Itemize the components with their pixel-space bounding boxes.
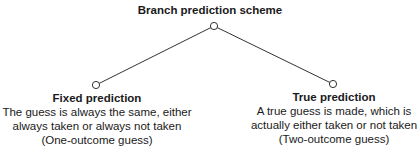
leaf-true-prediction: True prediction A true guess is made, wh…: [234, 90, 420, 146]
edge-right: [214, 26, 333, 84]
leaf-line: A true guess is made, which is: [234, 104, 420, 118]
root-label: Branch prediction scheme: [0, 4, 420, 16]
leaf-title: True prediction: [234, 90, 420, 104]
leaf-line: The guess is always the same, either: [0, 105, 194, 119]
edge-left: [96, 26, 214, 85]
leaf-line: always taken or always not taken: [0, 119, 194, 133]
right-node: [329, 80, 336, 87]
left-node: [92, 81, 99, 88]
root-node: [210, 22, 217, 29]
leaf-fixed-prediction: Fixed prediction The guess is always the…: [0, 91, 194, 147]
leaf-line: (One-outcome guess): [0, 133, 194, 147]
leaf-line: (Two-outcome guess): [234, 132, 420, 146]
leaf-line: actually either taken or not taken: [234, 118, 420, 132]
leaf-title: Fixed prediction: [0, 91, 194, 105]
